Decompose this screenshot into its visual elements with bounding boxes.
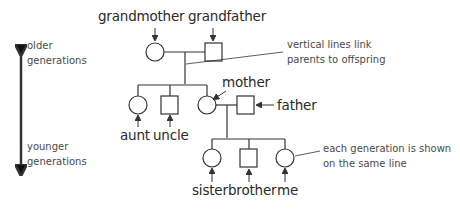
uncle-label: uncle bbox=[153, 127, 189, 143]
vertical-lines-annotation: vertical lines link parents to offspring bbox=[287, 37, 386, 67]
grandmother-label: grandmother bbox=[98, 8, 184, 24]
aunt-symbol bbox=[129, 96, 147, 114]
generation-line-annotation: each generation is shown on the same lin… bbox=[323, 141, 451, 171]
me-symbol bbox=[276, 149, 294, 167]
grandfather-symbol bbox=[205, 43, 222, 61]
brother-symbol bbox=[240, 149, 257, 167]
father-label: father bbox=[277, 97, 317, 113]
sister-symbol bbox=[203, 149, 221, 167]
mother-symbol bbox=[198, 96, 216, 114]
pedigree-lines bbox=[0, 0, 460, 209]
brother-label: brother bbox=[228, 182, 276, 198]
grandmother-symbol bbox=[146, 43, 164, 61]
family-tree-diagram: older generations younger generations gr… bbox=[0, 0, 460, 209]
uncle-symbol bbox=[161, 96, 178, 114]
grandfather-label: grandfather bbox=[188, 8, 266, 24]
younger-generations-label: younger generations bbox=[27, 139, 87, 169]
father-symbol bbox=[237, 96, 254, 114]
older-generations-label: older generations bbox=[27, 38, 87, 68]
aunt-label: aunt bbox=[120, 127, 150, 143]
me-label: me bbox=[277, 182, 298, 198]
sister-label: sister bbox=[192, 182, 228, 198]
mother-label: mother bbox=[222, 74, 270, 90]
